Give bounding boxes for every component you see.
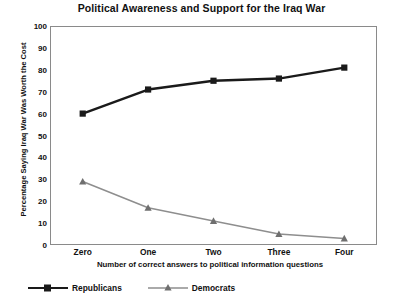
y-tick-80: 80 — [21, 65, 47, 74]
x-tick-three: Three — [267, 247, 290, 257]
chart-figure: Political Awareness and Support for the … — [0, 0, 403, 301]
data-point-republicans-four — [341, 65, 347, 71]
y-tick-100: 100 — [21, 22, 47, 31]
x-tick-two: Two — [205, 247, 221, 257]
legend-swatch-democrats — [148, 283, 188, 293]
x-tick-zero: Zero — [74, 247, 92, 257]
data-point-republicans-zero — [80, 111, 86, 117]
x-tick-four: Four — [335, 247, 354, 257]
y-tick-90: 90 — [21, 43, 47, 52]
y-tick-70: 70 — [21, 87, 47, 96]
legend-label-democrats: Democrats — [192, 283, 235, 293]
data-point-democrats-zero — [79, 178, 86, 185]
chart-legend: Republicans Democrats — [28, 279, 235, 297]
data-point-republicans-three — [276, 75, 282, 81]
y-tick-20: 20 — [21, 197, 47, 206]
y-tick-60: 60 — [21, 109, 47, 118]
series-republicans — [80, 65, 348, 117]
plot-series-layer — [50, 26, 377, 245]
y-axis-tick-labels: 1009080706050403020100 — [17, 0, 47, 301]
y-tick-40: 40 — [21, 153, 47, 162]
x-axis-label: Number of correct answers to political i… — [40, 260, 380, 269]
y-tick-0: 0 — [21, 241, 47, 250]
x-tick-one: One — [140, 247, 156, 257]
legend-entry-republicans: Republicans — [28, 283, 122, 293]
data-point-republicans-two — [210, 78, 216, 84]
y-tick-30: 30 — [21, 175, 47, 184]
legend-label-republicans: Republicans — [72, 283, 122, 293]
series-democrats — [79, 178, 348, 242]
y-tick-50: 50 — [21, 131, 47, 140]
chart-title: Political Awareness and Support for the … — [0, 2, 403, 14]
legend-entry-democrats: Democrats — [148, 283, 235, 293]
data-point-republicans-one — [145, 86, 151, 92]
legend-swatch-republicans — [28, 283, 68, 293]
y-tick-10: 10 — [21, 219, 47, 228]
